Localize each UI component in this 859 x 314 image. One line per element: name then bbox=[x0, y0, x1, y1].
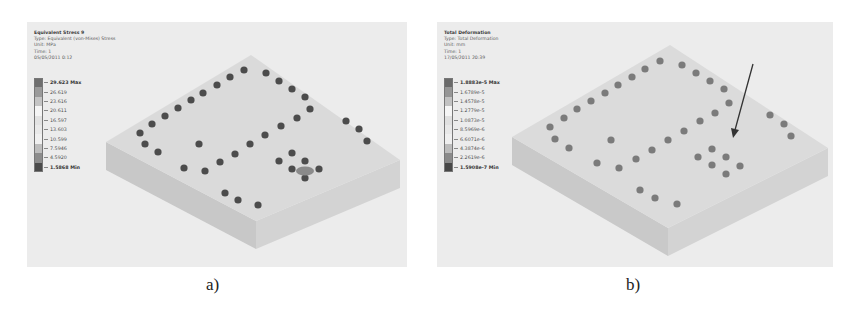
legend-swatch bbox=[34, 144, 43, 153]
legend-tick bbox=[44, 110, 48, 111]
legend-row: 1.4578e-5 bbox=[444, 97, 500, 106]
legend-tick bbox=[454, 129, 458, 130]
legend-tick bbox=[454, 101, 458, 102]
legend-swatch bbox=[34, 116, 43, 125]
legend-swatch bbox=[444, 78, 453, 87]
legend-row: 29.623 Max bbox=[34, 78, 81, 87]
legend-row: 10.599 bbox=[34, 134, 81, 143]
legend-label: 4.3874e-6 bbox=[460, 146, 485, 151]
legend-tick bbox=[44, 92, 48, 93]
legend-swatch bbox=[444, 116, 453, 125]
legend-swatch bbox=[444, 144, 453, 153]
legend-label: 1.6789e-5 bbox=[460, 90, 485, 95]
caption-a: a) bbox=[206, 275, 219, 295]
legend-row: 20.611 bbox=[34, 106, 81, 115]
result-timestamp: 17/05/2011 20:39 bbox=[444, 55, 498, 61]
deformation-result-panel: Total Deformation Type: Total Deformatio… bbox=[437, 22, 833, 267]
legend-swatch bbox=[444, 97, 453, 106]
legend-row: 4.5920 bbox=[34, 153, 81, 162]
legend-label: 10.599 bbox=[50, 137, 67, 142]
legend-label: 16.597 bbox=[50, 118, 67, 123]
legend-row: 26.619 bbox=[34, 87, 81, 96]
legend-swatch bbox=[444, 87, 453, 96]
legend-tick bbox=[454, 82, 458, 83]
legend-label: 7.5946 bbox=[50, 146, 67, 151]
legend-row: 1.6789e-5 bbox=[444, 87, 500, 96]
legend-row: 4.3874e-6 bbox=[444, 144, 500, 153]
legend-tick bbox=[44, 129, 48, 130]
legend-label: 1.5868 Min bbox=[50, 165, 80, 170]
legend-label: 4.5920 bbox=[50, 155, 67, 160]
plate-top bbox=[512, 45, 828, 228]
legend-tick bbox=[44, 101, 48, 102]
legend-swatch bbox=[444, 125, 453, 134]
color-legend: 1.8883e-5 Max1.6789e-51.4578e-51.2779e-5… bbox=[444, 78, 500, 172]
legend-label: 1.5908e-7 Min bbox=[460, 165, 499, 170]
legend-label: 20.611 bbox=[50, 108, 67, 113]
legend-swatch bbox=[444, 106, 453, 115]
legend-row: 1.5868 Min bbox=[34, 163, 81, 172]
legend-row: 2.2619e-6 bbox=[444, 153, 500, 162]
legend-label: 2.2619e-6 bbox=[460, 155, 485, 160]
legend-row: 1.8883e-5 Max bbox=[444, 78, 500, 87]
legend-row: 6.6071e-6 bbox=[444, 134, 500, 143]
legend-tick bbox=[454, 92, 458, 93]
caption-b: b) bbox=[626, 275, 640, 295]
color-legend: 29.623 Max26.61923.61620.61116.59713.603… bbox=[34, 78, 81, 172]
legend-label: 1.2779e-5 bbox=[460, 108, 485, 113]
legend-tick bbox=[44, 167, 48, 168]
legend-tick bbox=[454, 110, 458, 111]
legend-swatch bbox=[34, 78, 43, 87]
stress-result-panel: Equivalent Stress 9 Type: Equivalent (vo… bbox=[27, 22, 407, 267]
result-timestamp: 05/05/2011 0:12 bbox=[34, 55, 116, 61]
stress-hotspot bbox=[296, 167, 314, 176]
legend-tick bbox=[44, 139, 48, 140]
legend-row: 16.597 bbox=[34, 116, 81, 125]
legend-swatch bbox=[34, 153, 43, 162]
legend-label: 8.5969e-6 bbox=[460, 127, 485, 132]
legend-swatch bbox=[444, 163, 453, 172]
legend-swatch bbox=[34, 125, 43, 134]
legend-row: 13.603 bbox=[34, 125, 81, 134]
legend-tick bbox=[454, 167, 458, 168]
legend-swatch bbox=[34, 106, 43, 115]
legend-swatch bbox=[34, 97, 43, 106]
legend-label: 29.623 Max bbox=[50, 80, 81, 85]
legend-label: 23.616 bbox=[50, 99, 67, 104]
legend-tick bbox=[44, 148, 48, 149]
legend-row: 8.5969e-6 bbox=[444, 125, 500, 134]
legend-label: 26.619 bbox=[50, 90, 67, 95]
legend-tick bbox=[454, 148, 458, 149]
legend-row: 1.2779e-5 bbox=[444, 106, 500, 115]
legend-swatch bbox=[34, 87, 43, 96]
legend-swatch bbox=[444, 134, 453, 143]
result-info-block: Equivalent Stress 9 Type: Equivalent (vo… bbox=[34, 30, 116, 61]
legend-tick bbox=[454, 157, 458, 158]
legend-tick bbox=[44, 120, 48, 121]
legend-label: 6.6071e-6 bbox=[460, 137, 485, 142]
legend-label: 1.4578e-5 bbox=[460, 99, 485, 104]
legend-swatch bbox=[34, 134, 43, 143]
legend-tick bbox=[44, 82, 48, 83]
legend-tick bbox=[454, 139, 458, 140]
legend-label: 13.603 bbox=[50, 127, 67, 132]
legend-row: 1.0873e-5 bbox=[444, 116, 500, 125]
legend-tick bbox=[454, 120, 458, 121]
legend-row: 23.616 bbox=[34, 97, 81, 106]
legend-row: 1.5908e-7 Min bbox=[444, 163, 500, 172]
result-info-block: Total Deformation Type: Total Deformatio… bbox=[444, 30, 498, 61]
legend-tick bbox=[44, 157, 48, 158]
legend-swatch bbox=[444, 153, 453, 162]
legend-swatch bbox=[34, 163, 43, 172]
legend-label: 1.0873e-5 bbox=[460, 118, 485, 123]
legend-label: 1.8883e-5 Max bbox=[460, 80, 500, 85]
legend-row: 7.5946 bbox=[34, 144, 81, 153]
